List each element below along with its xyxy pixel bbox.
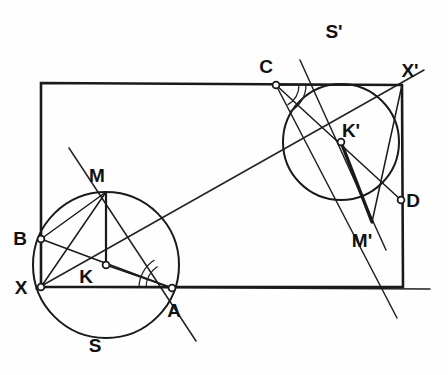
point-label-B: B <box>13 228 27 249</box>
point-label-D: D <box>406 190 420 211</box>
point-marker-A <box>169 285 176 292</box>
point-label-A: A <box>167 300 181 321</box>
point-label-Mp: M' <box>352 230 372 251</box>
point-label-M: M <box>89 165 105 186</box>
angle-mark-at-C-inner <box>288 85 300 105</box>
chord-X-M <box>41 192 106 287</box>
point-label-K: K <box>79 266 93 287</box>
point-marker-D <box>398 197 405 204</box>
point-marker-X <box>38 284 45 291</box>
point-label-Xp: X' <box>401 60 418 81</box>
angle-mark-at-A-inner <box>146 266 157 288</box>
point-label-Sp: S' <box>325 21 342 42</box>
angle-arcs-layer <box>139 85 306 288</box>
geometry-canvas: XBMKASCX'K'DM'S' <box>0 0 448 375</box>
geometry-figure: XBMKASCX'K'DM'S' <box>0 0 448 375</box>
point-marker-K <box>103 262 110 269</box>
segment-Kp-Mp <box>341 142 372 222</box>
point-label-C: C <box>259 56 273 77</box>
point-marker-C <box>273 82 280 89</box>
points-layer <box>38 82 405 292</box>
point-marker-B <box>38 236 45 243</box>
point-label-Kp: K' <box>342 120 360 141</box>
angle-mark-at-C <box>290 85 306 111</box>
point-label-X: X <box>15 277 28 298</box>
point-label-S: S <box>89 335 102 356</box>
